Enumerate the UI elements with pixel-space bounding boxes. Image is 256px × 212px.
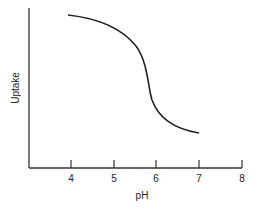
x-tick-label: 4: [68, 173, 74, 184]
x-tick-label: 8: [239, 173, 245, 184]
chart: 4 5 6 7 8 pH Uptake: [0, 0, 256, 212]
x-tick-label: 6: [153, 173, 159, 184]
x-tick-label: 7: [196, 173, 202, 184]
y-axis-title: Uptake: [10, 72, 21, 104]
x-ticks: [71, 160, 242, 168]
x-axis-title: pH: [136, 190, 149, 201]
x-tick-label: 5: [111, 173, 117, 184]
x-tick-labels: 4 5 6 7 8: [68, 173, 245, 184]
uptake-curve: [68, 15, 199, 133]
